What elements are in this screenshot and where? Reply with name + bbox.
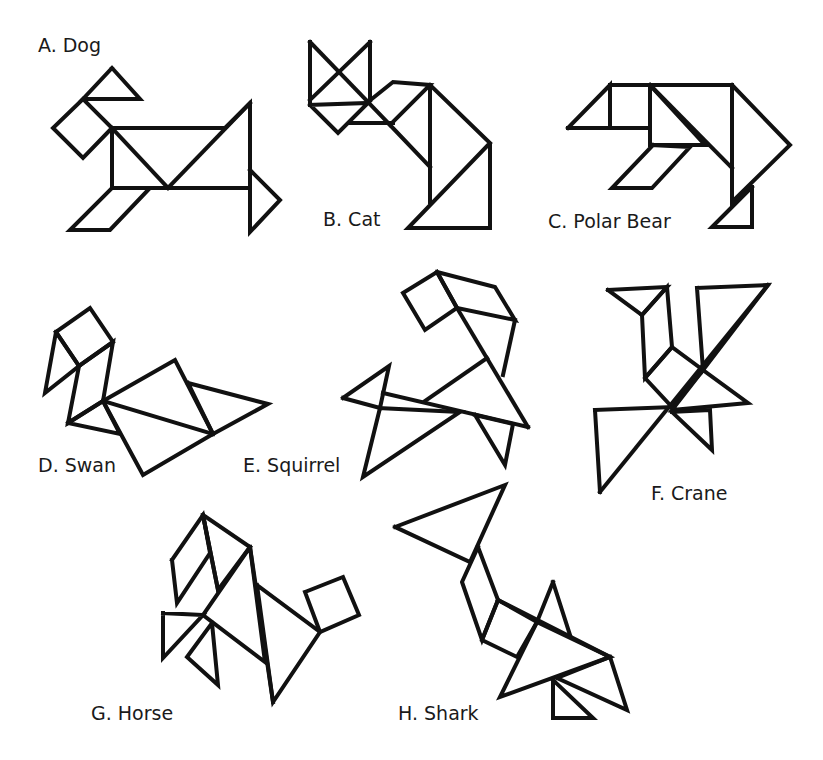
tangram-piece: [187, 623, 218, 685]
tangram-piece: [612, 145, 690, 188]
tangram-piece: [557, 657, 627, 710]
figure-label-crane: F. Crane: [651, 482, 727, 504]
tangram-piece: [70, 188, 150, 230]
figure-squirrel: E. Squirrel: [243, 272, 528, 477]
tangram-piece: [83, 68, 140, 99]
tangram-piece: [56, 308, 113, 366]
tangram-piece: [537, 582, 553, 622]
figure-label-polar-bear: C. Polar Bear: [548, 210, 671, 232]
figure-swan: D. Swan: [38, 308, 268, 476]
tangram-piece: [203, 515, 218, 590]
tangram-piece: [343, 366, 389, 408]
tangram-piece: [403, 272, 457, 330]
tangram-piece: [363, 408, 460, 477]
tangram-piece: [503, 320, 515, 375]
tangram-piece: [595, 407, 672, 410]
tangram-piece: [650, 85, 732, 168]
figure-crane: F. Crane: [595, 285, 768, 504]
tangram-piece: [732, 85, 790, 202]
tangram-piece: [112, 128, 168, 188]
figure-horse: G. Horse: [91, 515, 359, 724]
tangram-piece: [425, 358, 487, 401]
tangram-piece: [305, 577, 359, 632]
figure-shark: H. Shark: [395, 485, 627, 724]
figures-layer: A. DogB. CatC. Polar BearD. SwanE. Squir…: [38, 34, 790, 724]
tangram-piece: [163, 613, 203, 658]
tangram-piece: [390, 125, 430, 167]
tangram-piece: [53, 99, 112, 158]
tangram-piece: [310, 103, 368, 133]
figure-label-swan: D. Swan: [38, 454, 116, 476]
tangram-piece: [250, 170, 280, 232]
tangram-piece: [595, 410, 600, 492]
figure-label-dog: A. Dog: [38, 34, 101, 56]
tangram-piece: [395, 485, 505, 562]
tangram-piece: [608, 287, 667, 315]
tangram-figures-canvas: A. DogB. CatC. Polar BearD. SwanE. Squir…: [0, 0, 823, 760]
figure-label-horse: G. Horse: [91, 702, 173, 724]
tangram-piece: [475, 415, 513, 465]
tangram-piece: [482, 600, 537, 657]
tangram-piece: [368, 82, 430, 125]
figure-label-squirrel: E. Squirrel: [243, 454, 340, 476]
figure-label-shark: H. Shark: [398, 702, 479, 724]
figure-cat: B. Cat: [310, 42, 490, 230]
figure-polar-bear: C. Polar Bear: [548, 85, 790, 232]
tangram-piece: [672, 410, 712, 450]
figure-label-cat: B. Cat: [323, 208, 380, 230]
tangram-piece: [168, 103, 250, 188]
figure-dog: A. Dog: [38, 34, 280, 232]
tangram-piece: [568, 85, 610, 128]
tangram-piece: [188, 383, 268, 434]
tangram-piece: [600, 285, 768, 492]
tangram-piece: [457, 308, 528, 427]
